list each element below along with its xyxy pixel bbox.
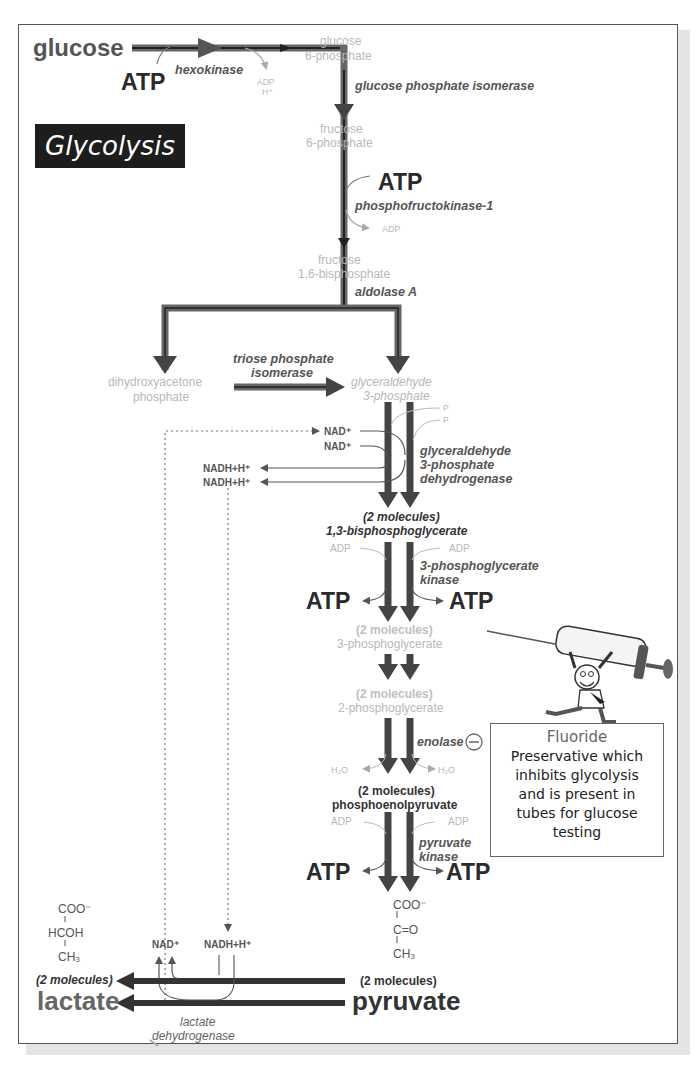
nad-curve-1 bbox=[360, 431, 405, 455]
enzyme-gapdh-line1: glyceraldehyde bbox=[419, 444, 511, 458]
atp-input-1: ATP bbox=[121, 69, 165, 95]
callout-line: Preservative which bbox=[491, 747, 663, 766]
f6p-label-line1: fructose bbox=[320, 122, 363, 136]
adp4-left-curve bbox=[364, 822, 386, 834]
atp2-in-curve bbox=[346, 176, 370, 190]
pyruvate-structure-co: C=O bbox=[393, 923, 418, 937]
syringe-cartoon-illustration bbox=[487, 625, 673, 722]
nadh-arrow-2 bbox=[262, 460, 405, 482]
enzyme-pgk-line2: kinase bbox=[420, 573, 459, 587]
g3p-label-line2: 3-phosphate bbox=[363, 389, 430, 403]
pk-double-arrow bbox=[378, 812, 420, 892]
g3p-label-line1: glyceraldehyde bbox=[351, 375, 432, 389]
nad-label-b: NAD⁺ bbox=[324, 441, 351, 452]
callout-line: tubes for glucose bbox=[491, 804, 663, 823]
enolase-double-arrow bbox=[378, 718, 420, 774]
pgk-double-arrow bbox=[378, 542, 420, 622]
enzyme-ldh-line2: dehydrogenase bbox=[152, 1029, 235, 1043]
enzyme-aldolase: aldolase A bbox=[355, 285, 417, 299]
adp3-right: ADP bbox=[449, 543, 470, 554]
h2o-right-arrow bbox=[412, 754, 434, 769]
f16bp-label-line1: fructose bbox=[318, 253, 361, 267]
atp-output-4-right: ATP bbox=[446, 859, 490, 885]
atp3-right-arrow bbox=[412, 588, 442, 601]
pi-label-2: P bbox=[443, 415, 449, 425]
gapdh-double-arrow bbox=[378, 402, 420, 508]
adp4-left: ADP bbox=[331, 816, 352, 827]
g6p-label-line1: glucose bbox=[320, 34, 362, 48]
ldh-cofactor-curve bbox=[159, 955, 234, 1000]
enzyme-gapdh-line2: 3-phosphate bbox=[420, 458, 494, 472]
enzyme-pfk1: phosphofructokinase-1 bbox=[354, 199, 493, 213]
nadh-label-c: NADH+H⁺ bbox=[204, 939, 251, 950]
f6p-label-line2: 6-phosphate bbox=[306, 136, 373, 150]
enzyme-ldh-line1: lactate bbox=[180, 1015, 216, 1029]
adp3-left-curve bbox=[360, 548, 386, 560]
pep-count: (2 molecules) bbox=[358, 784, 435, 798]
pg3-count: (2 molecules) bbox=[356, 623, 433, 637]
tpi-arrow bbox=[234, 377, 345, 397]
enzyme-tpi-line2: isomerase bbox=[251, 366, 313, 380]
lactate-count: (2 molecules) bbox=[36, 973, 113, 987]
pyruvate-structure-coo: COO⁻ bbox=[393, 898, 426, 912]
nadh-label-a: NADH+H⁺ bbox=[203, 463, 250, 474]
callout-line: and is present in bbox=[491, 785, 663, 804]
bpg-count: (2 molecules) bbox=[363, 510, 440, 524]
syringe-plunger bbox=[646, 665, 664, 668]
nadh-label-b: NADH+H⁺ bbox=[203, 477, 250, 488]
nad-curve-2 bbox=[360, 446, 388, 460]
atp4-left-arrow bbox=[364, 858, 386, 871]
enzyme-pk-line1: pyruvate bbox=[418, 836, 471, 850]
nad-up-arrow-2 bbox=[172, 958, 178, 978]
fluoride-callout: Fluoride Preservative which inhibits gly… bbox=[490, 723, 664, 857]
nad-label-a: NAD⁺ bbox=[324, 426, 351, 437]
atp-output-3-right: ATP bbox=[449, 588, 493, 614]
dhap-label-line1: dihydroxyacetone bbox=[108, 375, 202, 389]
adp-output-2: ADP bbox=[382, 224, 401, 234]
lactate-structure-coo: COO⁻ bbox=[58, 902, 91, 916]
bpg-label: 1,3-bisphosphoglycerate bbox=[326, 524, 468, 538]
enzyme-gapdh-line3: dehydrogenase bbox=[420, 472, 512, 486]
adp-output-1: ADP bbox=[257, 77, 275, 87]
diagram-title: Glycolysis bbox=[35, 124, 185, 168]
pgm-double-arrow bbox=[378, 654, 420, 680]
pg3-label: 3-phosphoglycerate bbox=[337, 637, 443, 651]
enzyme-gpi: glucose phosphate isomerase bbox=[354, 79, 534, 93]
enzyme-pgk-line1: 3-phosphoglycerate bbox=[420, 559, 539, 573]
callout-title: Fluoride bbox=[491, 728, 663, 747]
pi-line-1 bbox=[391, 408, 440, 425]
syringe-plunger-cap bbox=[663, 659, 673, 679]
pg2-label: 2-phosphoglycerate bbox=[338, 701, 444, 715]
pi-label-1: P bbox=[443, 403, 449, 413]
callout-body: Preservative which inhibits glycolysis a… bbox=[491, 747, 663, 842]
pg2-count: (2 molecules) bbox=[356, 687, 433, 701]
atp-output-3-left: ATP bbox=[306, 588, 350, 614]
pyruvate-label: pyruvate bbox=[352, 986, 460, 1016]
ldh-arrows bbox=[116, 972, 345, 1012]
callout-line: testing bbox=[491, 823, 663, 842]
pyruvate-structure-ch3: CH₃ bbox=[393, 947, 415, 961]
lactate-structure-ch3: CH₃ bbox=[58, 950, 80, 964]
adp4-right-curve bbox=[412, 822, 434, 834]
atp-input-2: ATP bbox=[378, 169, 422, 195]
atp3-left-arrow bbox=[364, 588, 386, 601]
h-output-1: H⁺ bbox=[262, 87, 273, 97]
callout-line: inhibits glycolysis bbox=[491, 766, 663, 785]
syringe-needle bbox=[487, 631, 555, 644]
h2o-right: H₂O bbox=[438, 765, 455, 775]
nadh-arrow-1 bbox=[262, 462, 388, 468]
adp4-right: ADP bbox=[448, 816, 469, 827]
h2o-left: H₂O bbox=[331, 765, 348, 775]
pep-label: phosphoenolpyruvate bbox=[332, 798, 458, 812]
adp3-left: ADP bbox=[330, 543, 351, 554]
g6p-label-line2: 6-phosphate bbox=[305, 49, 372, 63]
lactate-label: lactate bbox=[37, 986, 119, 1016]
lactate-structure-hcoh: HCOH bbox=[48, 926, 83, 940]
pi-line-2 bbox=[413, 420, 440, 440]
dhap-label-line2: phosphate bbox=[133, 390, 189, 404]
enzyme-tpi-line1: triose phosphate bbox=[233, 352, 334, 366]
nad-label-c: NAD⁺ bbox=[152, 939, 179, 950]
h2o-left-arrow bbox=[364, 754, 386, 769]
enzyme-enolase: enolase bbox=[417, 735, 464, 749]
nad-regeneration-dotted bbox=[165, 431, 318, 1000]
